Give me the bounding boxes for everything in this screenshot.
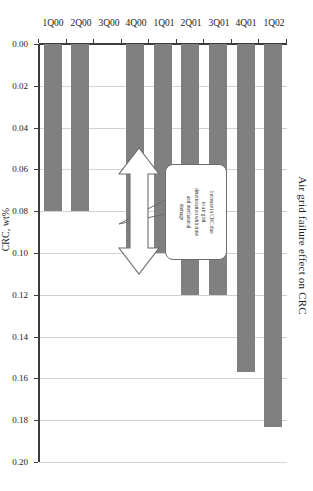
value-axis-label-0.00: 0.00 [3, 39, 37, 49]
annotation-line-5: damage [177, 166, 185, 258]
value-axis-label-0.12: 0.12 [3, 290, 37, 300]
value-axis-label-0.18: 0.18 [3, 415, 37, 425]
category-tick [38, 39, 39, 43]
annotation-line-4: and mechanical [185, 166, 193, 258]
value-axis-label-0.16: 0.16 [3, 373, 37, 383]
value-axis-label-0.06: 0.06 [3, 164, 37, 174]
value-axis-title: CRC, wt% [0, 208, 11, 251]
category-tick [121, 39, 122, 43]
category-tick [203, 39, 204, 43]
value-axis-label-0.20: 0.20 [3, 457, 37, 467]
annotation-callout: Increase in CRC due to air grid deterior… [165, 164, 227, 260]
annotation-text: Increase in CRC due to air grid deterior… [177, 166, 215, 258]
category-tick [66, 39, 67, 43]
bar-1Q02[interactable] [264, 44, 282, 427]
annotation-line-2: to air grid [200, 166, 208, 258]
category-tick [93, 39, 94, 43]
gridline-0.20 [39, 462, 287, 463]
category-tick [176, 39, 177, 43]
value-axis [38, 44, 40, 462]
gridline-0.16 [39, 378, 287, 379]
bar-1Q00[interactable] [44, 44, 62, 211]
bar-2Q00[interactable] [71, 44, 89, 211]
chart-title: Air grid failure effect on CRC [297, 0, 309, 491]
value-axis-label-0.04: 0.04 [3, 123, 37, 133]
annotation-line-3: deterioration with time [192, 166, 200, 258]
annotation-line-1: Increase in CRC due [207, 166, 215, 258]
double-headed-arrow-icon [117, 148, 161, 274]
category-tick [286, 39, 287, 43]
plot-area: Increase in CRC due to air grid deterior… [39, 44, 287, 462]
category-tick [148, 39, 149, 43]
category-tick [231, 39, 232, 43]
category-label-1Q00: 1Q00 [34, 18, 74, 28]
value-axis-label-0.14: 0.14 [3, 332, 37, 342]
bar-4Q01[interactable] [237, 44, 255, 372]
chart-figure: Air grid failure effect on CRC [0, 0, 313, 491]
category-tick [259, 39, 260, 43]
value-axis-label-0.02: 0.02 [3, 81, 37, 91]
gridline-0.18 [39, 420, 287, 421]
